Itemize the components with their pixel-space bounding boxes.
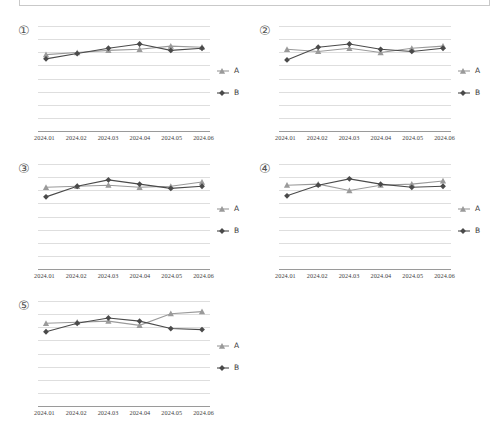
x-tick-label: 2024.01	[275, 272, 296, 280]
legend-label: A	[234, 66, 239, 76]
chart-panel-4: ④2024.012024.022024.032024.042024.052024…	[255, 160, 500, 295]
x-tick-label: 2024.06	[434, 134, 455, 142]
triangle-marker	[216, 204, 232, 214]
chart-legend: AB	[457, 198, 499, 242]
x-axis-labels: 2024.012024.022024.032024.042024.052024.…	[34, 409, 214, 417]
series-b	[43, 315, 205, 335]
diamond-marker	[216, 88, 232, 98]
x-tick-label: 2024.05	[402, 134, 423, 142]
legend-item-a[interactable]: A	[216, 335, 258, 357]
plot-area	[279, 164, 451, 270]
x-tick-label: 2024.06	[193, 134, 214, 142]
header-empty-box	[19, 0, 490, 6]
legend-label: B	[234, 88, 239, 98]
series-a	[284, 43, 446, 55]
series-layer	[38, 301, 210, 407]
x-tick-label: 2024.03	[98, 409, 119, 417]
x-tick-label: 2024.03	[98, 134, 119, 142]
diamond-marker	[457, 88, 473, 98]
x-tick-label: 2024.06	[193, 272, 214, 280]
triangle-marker	[457, 66, 473, 76]
x-tick-label: 2024.01	[34, 134, 55, 142]
plot-area	[38, 26, 210, 132]
x-tick-label: 2024.02	[66, 272, 87, 280]
x-tick-label: 2024.03	[339, 134, 360, 142]
panel-index-label: ②	[259, 24, 271, 37]
triangle-marker	[216, 341, 232, 351]
series-layer	[279, 164, 451, 270]
series-a	[284, 178, 446, 193]
x-tick-label: 2024.02	[307, 272, 328, 280]
chart-legend: AB	[216, 60, 258, 104]
x-tick-label: 2024.04	[370, 272, 391, 280]
series-a	[43, 309, 205, 329]
series-layer	[38, 164, 210, 270]
x-tick-label: 2024.05	[161, 134, 182, 142]
diamond-marker	[457, 226, 473, 236]
plot-area	[38, 164, 210, 270]
legend-label: A	[234, 341, 239, 351]
series-a	[43, 179, 205, 190]
x-tick-label: 2024.04	[370, 134, 391, 142]
x-tick-label: 2024.05	[161, 272, 182, 280]
diamond-marker	[216, 226, 232, 236]
legend-label: B	[234, 363, 239, 373]
legend-item-b[interactable]: B	[216, 357, 258, 379]
chart-panel-5: ⑤2024.012024.022024.032024.042024.052024…	[14, 297, 259, 432]
x-tick-label: 2024.06	[193, 409, 214, 417]
legend-label: A	[475, 204, 480, 214]
x-axis-labels: 2024.012024.022024.032024.042024.052024.…	[34, 134, 214, 142]
chart-legend: AB	[457, 60, 499, 104]
series-layer	[38, 26, 210, 132]
legend-item-b[interactable]: B	[457, 82, 499, 104]
legend-label: A	[234, 204, 239, 214]
panel-index-label: ③	[18, 162, 30, 175]
chart-legend: AB	[216, 335, 258, 379]
x-tick-label: 2024.04	[129, 134, 150, 142]
x-axis-labels: 2024.012024.022024.032024.042024.052024.…	[34, 272, 214, 280]
legend-item-b[interactable]: B	[457, 220, 499, 242]
x-tick-label: 2024.03	[339, 272, 360, 280]
x-tick-label: 2024.05	[161, 409, 182, 417]
x-tick-label: 2024.02	[66, 134, 87, 142]
legend-item-b[interactable]: B	[216, 82, 258, 104]
legend-label: A	[475, 66, 480, 76]
x-tick-label: 2024.04	[129, 272, 150, 280]
panel-index-label: ①	[18, 24, 30, 37]
triangle-marker	[457, 204, 473, 214]
triangle-marker	[216, 66, 232, 76]
legend-label: B	[475, 226, 480, 236]
chart-panel-3: ③2024.012024.022024.032024.042024.052024…	[14, 160, 259, 295]
legend-label: B	[475, 88, 480, 98]
legend-item-a[interactable]: A	[216, 60, 258, 82]
legend-label: B	[234, 226, 239, 236]
x-axis-labels: 2024.012024.022024.032024.042024.052024.…	[275, 134, 455, 142]
plot-area	[38, 301, 210, 407]
x-tick-label: 2024.02	[307, 134, 328, 142]
series-b	[284, 41, 446, 63]
x-tick-label: 2024.01	[34, 409, 55, 417]
panel-index-label: ④	[259, 162, 271, 175]
plot-area	[279, 26, 451, 132]
legend-item-a[interactable]: A	[216, 198, 258, 220]
legend-item-a[interactable]: A	[457, 198, 499, 220]
diamond-marker	[216, 363, 232, 373]
x-axis-labels: 2024.012024.022024.032024.042024.052024.…	[275, 272, 455, 280]
panel-index-label: ⑤	[18, 299, 30, 312]
x-tick-label: 2024.01	[275, 134, 296, 142]
series-layer	[279, 26, 451, 132]
legend-item-b[interactable]: B	[216, 220, 258, 242]
x-tick-label: 2024.01	[34, 272, 55, 280]
chart-legend: AB	[216, 198, 258, 242]
series-b	[43, 177, 205, 200]
x-tick-label: 2024.06	[434, 272, 455, 280]
x-tick-label: 2024.05	[402, 272, 423, 280]
x-tick-label: 2024.03	[98, 272, 119, 280]
legend-item-a[interactable]: A	[457, 60, 499, 82]
x-tick-label: 2024.02	[66, 409, 87, 417]
series-b	[43, 41, 205, 62]
chart-panel-2: ②2024.012024.022024.032024.042024.052024…	[255, 22, 500, 157]
x-tick-label: 2024.04	[129, 409, 150, 417]
chart-panel-1: ①2024.012024.022024.032024.042024.052024…	[14, 22, 259, 157]
